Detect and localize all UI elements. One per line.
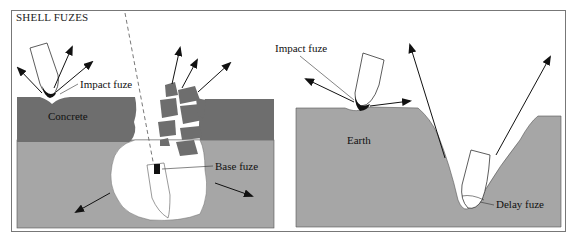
base-fuze-label: Base fuze: [215, 160, 258, 172]
shell-fuzes-diagram: Impact fuze Concrete Base fuze Impact fu…: [0, 0, 576, 244]
concrete-layer-right: [199, 99, 274, 140]
debris-arrow: [172, 48, 180, 84]
earth-label: Earth: [347, 134, 371, 146]
debris-arrow: [182, 60, 197, 88]
impact-fuze-label-left: Impact fuze: [80, 78, 132, 90]
delay-fuze-label: Delay fuze: [496, 198, 544, 210]
impact-fuze-label-right: Impact fuze: [275, 42, 327, 54]
blast-arrow: [370, 101, 410, 106]
impact-shell-left: [30, 43, 58, 98]
left-panel: Impact fuze Concrete Base fuze: [17, 13, 274, 228]
impact-shell-right: [355, 53, 384, 111]
right-panel: Impact fuze Earth Delay fuze: [275, 42, 561, 227]
blast-arrow: [306, 79, 354, 102]
impact-fuze-leader-right: [300, 56, 354, 100]
debris-arrow: [198, 63, 230, 92]
concrete-label: Concrete: [48, 110, 88, 122]
impact-fuze-leader-left: [60, 84, 78, 94]
blast-arrow: [54, 47, 72, 88]
